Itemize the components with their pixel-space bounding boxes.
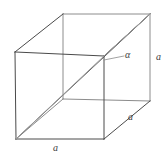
edge-depth-top-left	[15, 14, 63, 52]
edge-label-bottom-depth: a	[128, 112, 133, 122]
edge-back-bottom	[63, 99, 150, 101]
face-diagonal-line	[16, 56, 104, 139]
edge-label-right-vertical: a	[156, 52, 161, 62]
cube-figure: a a a α	[0, 0, 166, 158]
edge-front-top	[15, 52, 104, 56]
edge-label-bottom-front: a	[53, 143, 58, 153]
cube-back-face-edges	[63, 14, 150, 101]
cube-front-face-edges	[15, 52, 104, 139]
angle-label-alpha: α	[125, 50, 130, 60]
edge-front-left	[15, 52, 16, 139]
edge-depth-bottom-right	[104, 101, 150, 139]
alpha-leader-line	[104, 56, 124, 60]
cube-drawing	[0, 0, 166, 158]
